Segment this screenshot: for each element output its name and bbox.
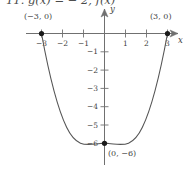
svg-text:−1: −1 [78, 39, 89, 48]
svg-text:−3: −3 [87, 84, 98, 93]
svg-text:1: 1 [123, 39, 128, 48]
y-tick-labels: −1 −2 −3 −4 −5 −6 [87, 47, 98, 148]
point-left-intercept [39, 31, 44, 36]
label-vertex: (0, −6) [108, 150, 136, 158]
point-right-intercept [165, 31, 170, 36]
svg-text:−1: −1 [87, 47, 98, 56]
svg-text:−2: −2 [57, 39, 68, 48]
label-right-intercept: (3, 0) [150, 13, 172, 21]
svg-text:2: 2 [144, 39, 149, 48]
parabola-figure: 11. g(x) = − 2, f(x) [0, 0, 189, 170]
svg-text:−4: −4 [87, 102, 98, 111]
label-left-intercept: (−3, 0) [24, 13, 52, 21]
svg-text:−3: −3 [36, 39, 47, 48]
svg-text:−6: −6 [87, 139, 98, 148]
x-tick-labels: −3 −2 −1 1 2 3 [36, 39, 170, 48]
x-axis-label: x [178, 36, 183, 45]
svg-text:−5: −5 [87, 121, 98, 130]
coordinate-plane: −3 −2 −1 1 2 3 −1 −2 −3 −4 −5 −6 [0, 0, 189, 170]
y-axis-label: y [110, 5, 115, 14]
point-vertex [102, 141, 107, 146]
svg-text:−2: −2 [87, 66, 98, 75]
